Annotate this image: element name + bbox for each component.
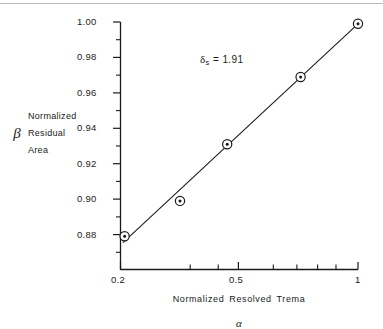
- y-axis-label-line-1: Normalized: [28, 108, 77, 125]
- data-point-marker: [223, 140, 232, 149]
- x-axis-major-ticks: [121, 262, 359, 270]
- x-tick-label-1: 1: [355, 274, 361, 285]
- data-point-marker: [353, 19, 362, 28]
- data-point-marker: [175, 196, 184, 205]
- y-tick-label-0.96: 0.96: [77, 87, 97, 98]
- y-axis-label-line-2: Residual: [28, 125, 77, 142]
- y-tick-label-0.88: 0.88: [77, 229, 97, 240]
- y-tick-label-0.90: 0.90: [77, 193, 97, 204]
- x-tick-label-0.5: 0.5: [229, 274, 243, 285]
- data-point-marker: [120, 232, 129, 241]
- alpha-symbol: α: [120, 317, 358, 329]
- y-axis-label-line-3: Area: [28, 142, 77, 159]
- y-tick-label-0.92: 0.92: [77, 158, 97, 169]
- delta-s-annotation: δs = 1.91: [200, 53, 243, 67]
- equals-sign: =: [213, 54, 219, 65]
- y-tick-label-1.00: 1.00: [77, 16, 97, 27]
- y-tick-label-0.98: 0.98: [77, 51, 97, 62]
- x-axis-label-text: Normalized Resolved Trema: [173, 294, 306, 304]
- y-axis-label: β Normalized Residual Area: [6, 108, 118, 159]
- data-point-marker: [296, 72, 305, 81]
- delta-subscript: s: [206, 58, 210, 67]
- delta-value: 1.91: [222, 54, 243, 65]
- beta-symbol: β: [6, 126, 28, 141]
- x-axis-minor-ticks: [190, 265, 336, 270]
- y-axis-label-lines: Normalized Residual Area: [28, 108, 77, 159]
- x-axis-label: Normalized Resolved Trema α: [120, 288, 358, 329]
- x-tick-label-0.2: 0.2: [111, 274, 125, 285]
